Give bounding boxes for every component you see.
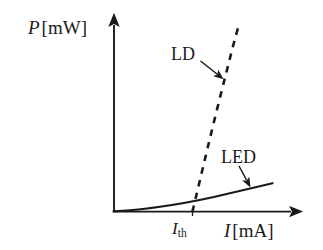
y-axis-unit: mW <box>48 17 81 38</box>
x-axis-label: I[mA] <box>224 221 273 240</box>
threshold-subscript: th <box>178 227 187 240</box>
x-axis-unit: mA <box>239 220 268 241</box>
x-unit-close-bracket: ] <box>267 220 273 241</box>
y-axis-label: P[mW] <box>28 18 87 37</box>
ld-curve <box>193 27 239 212</box>
y-unit-close-bracket: ] <box>81 17 87 38</box>
y-axis-symbol: P <box>28 17 40 38</box>
figure-root: P[mW] I[mA] Ith LD LED <box>0 0 323 250</box>
ld-curve-label: LD <box>171 45 195 63</box>
led-curve-label: LED <box>221 148 256 166</box>
threshold-current-label: Ith <box>172 220 187 240</box>
x-axis-symbol: I <box>224 220 230 241</box>
ld-annotation-arrow <box>201 61 218 74</box>
led-annotation-arrow <box>239 166 247 180</box>
